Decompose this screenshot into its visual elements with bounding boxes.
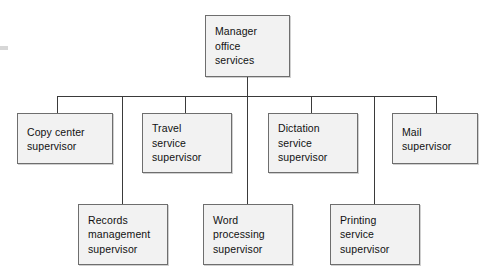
connector-manager-trunk — [247, 77, 248, 97]
node-records-management-supervisor[interactable]: Records management supervisor — [78, 204, 168, 265]
connector-drop-travel-service — [185, 96, 186, 114]
connector-drop-records-management — [122, 96, 123, 205]
node-dictation-service-supervisor-label: Dictation service supervisor — [278, 121, 327, 165]
node-travel-service-supervisor[interactable]: Travel service supervisor — [142, 113, 232, 173]
connector-drop-dictation-service — [311, 96, 312, 114]
node-records-management-supervisor-label: Records management supervisor — [88, 213, 150, 257]
node-copy-center-supervisor[interactable]: Copy center supervisor — [17, 113, 113, 164]
node-word-processing-supervisor-label: Word processing supervisor — [213, 213, 265, 257]
scan-artifact-left — [0, 46, 8, 50]
node-dictation-service-supervisor[interactable]: Dictation service supervisor — [268, 113, 358, 173]
node-travel-service-supervisor-label: Travel service supervisor — [152, 121, 201, 165]
node-copy-center-supervisor-label: Copy center supervisor — [27, 124, 85, 153]
node-manager-office-services[interactable]: Manager office services — [205, 15, 290, 77]
node-printing-service-supervisor[interactable]: Printing service supervisor — [330, 204, 420, 265]
connector-drop-word-processing — [247, 96, 248, 205]
connector-drop-copy-center — [57, 96, 58, 114]
node-mail-supervisor-label: Mail supervisor — [402, 124, 451, 153]
node-word-processing-supervisor[interactable]: Word processing supervisor — [203, 204, 293, 265]
node-manager-office-services-label: Manager office services — [215, 24, 257, 68]
node-mail-supervisor[interactable]: Mail supervisor — [392, 113, 478, 164]
org-chart: Manager office services Copy center supe… — [0, 0, 489, 276]
node-printing-service-supervisor-label: Printing service supervisor — [340, 213, 389, 257]
connector-drop-mail — [436, 96, 437, 114]
connector-drop-printing-service — [374, 96, 375, 205]
